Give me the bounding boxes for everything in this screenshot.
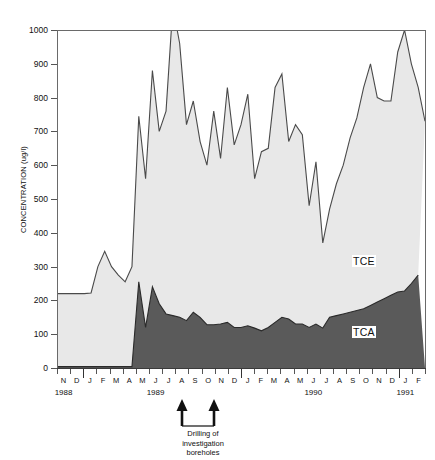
x-month-label: O [359, 376, 373, 385]
x-tick-month [412, 369, 413, 374]
x-month-label: J [306, 376, 320, 385]
x-axis-month-labels: NDJFMAMJJASONDJFMAMJJASONDJF [0, 376, 435, 388]
x-year-label: 1989 [139, 388, 173, 397]
x-month-label: S [188, 376, 202, 385]
x-month-label: M [109, 376, 123, 385]
x-month-label: J [149, 376, 163, 385]
x-month-label: J [398, 376, 412, 385]
x-month-label: J [83, 376, 97, 385]
drilling-arrows-icon [172, 398, 234, 428]
drilling-annotation: Drilling ofinvestigationboreholes [138, 398, 268, 458]
x-month-label: N [57, 376, 71, 385]
x-tick-month [149, 369, 150, 374]
x-tick-month [175, 369, 176, 374]
x-month-label: S [346, 376, 360, 385]
x-tick-month [215, 369, 216, 374]
drilling-annotation-text: Drilling ofinvestigationboreholes [138, 429, 268, 458]
x-month-label: D [385, 376, 399, 385]
x-tick-month [372, 369, 373, 374]
x-month-label: A [333, 376, 347, 385]
x-year-label: 1991 [388, 388, 422, 397]
x-tick-month [294, 369, 295, 374]
x-tick-month [425, 369, 426, 374]
x-tick-month [96, 369, 97, 374]
x-year-label: 1990 [296, 388, 330, 397]
plot-area [57, 30, 425, 368]
x-tick-month [228, 369, 229, 374]
x-tick-month [57, 369, 58, 374]
x-tick-month [307, 369, 308, 374]
x-tick-month [267, 369, 268, 374]
x-month-label: F [254, 376, 268, 385]
series-label-tca: TCA [352, 326, 376, 338]
x-month-label: J [241, 376, 255, 385]
x-tick-month [188, 369, 189, 374]
x-tick-month [359, 369, 360, 374]
plot-frame-left [57, 30, 58, 369]
plot-frame-right [425, 30, 426, 369]
x-tick-month [346, 369, 347, 374]
x-month-label: N [372, 376, 386, 385]
x-tick-month [202, 369, 203, 374]
x-month-label: M [293, 376, 307, 385]
x-month-label: F [96, 376, 110, 385]
x-month-label: A [280, 376, 294, 385]
x-month-label: J [162, 376, 176, 385]
chart-figure: CONCENTRATION (ug/l) 0100200300400500600… [0, 0, 435, 460]
x-month-label: N [214, 376, 228, 385]
x-tick-month [136, 369, 137, 374]
series-label-tce: TCE [352, 255, 376, 267]
plot-frame-top [57, 30, 426, 31]
x-month-label: F [411, 376, 425, 385]
x-tick-month [320, 369, 321, 374]
x-month-label: A [122, 376, 136, 385]
stacked-area-svg [57, 30, 425, 368]
x-month-label: M [135, 376, 149, 385]
x-tick-month [386, 369, 387, 374]
x-year-label: 1988 [47, 388, 81, 397]
x-tick-month [162, 369, 163, 374]
x-tick-month [280, 369, 281, 374]
x-tick-month [110, 369, 111, 374]
x-tick-month [333, 369, 334, 374]
x-month-label: A [175, 376, 189, 385]
x-month-label: O [201, 376, 215, 385]
x-month-label: D [70, 376, 84, 385]
x-month-label: D [227, 376, 241, 385]
x-month-label: M [267, 376, 281, 385]
x-month-label: J [319, 376, 333, 385]
x-tick-month [70, 369, 71, 374]
x-tick-month [254, 369, 255, 374]
x-tick-month [123, 369, 124, 374]
